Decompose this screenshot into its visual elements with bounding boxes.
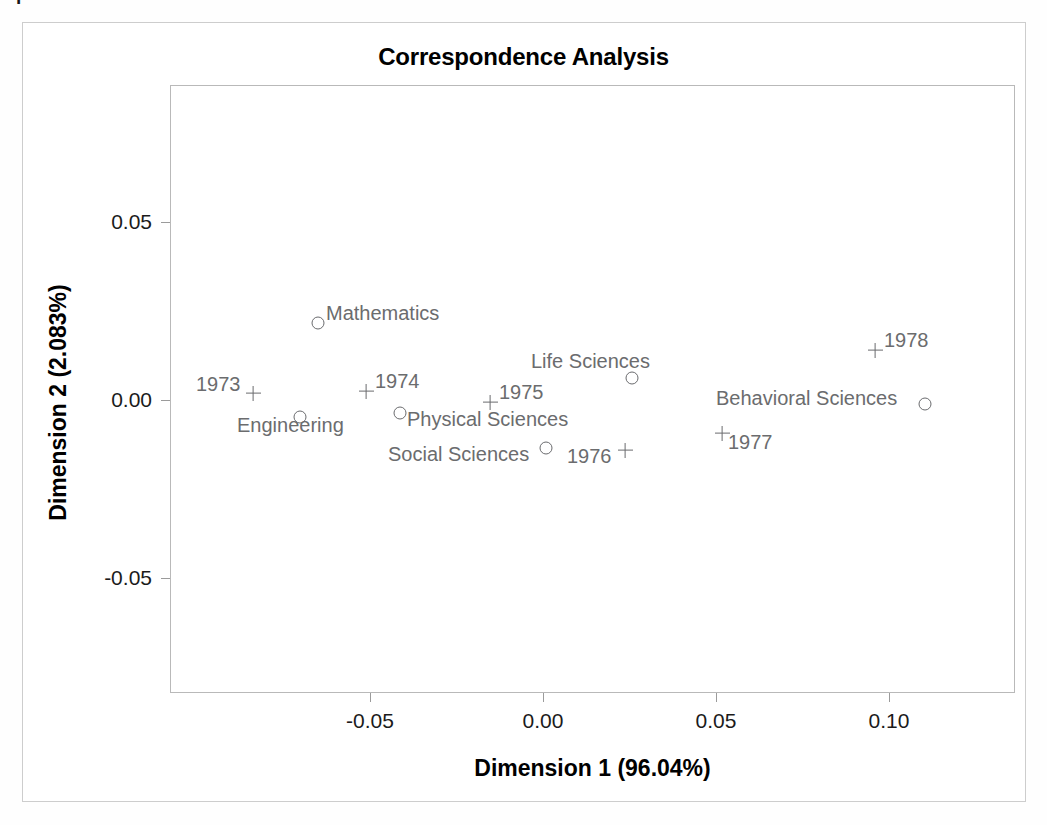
circle-marker [394,407,407,420]
circle-marker [312,317,325,330]
y-axis-tick-label: -0.05 [60,566,152,590]
data-point-label: 1977 [728,432,773,452]
data-point-label: Mathematics [326,303,439,323]
chart-title: Correspondence Analysis [0,43,1047,71]
x-axis-tick-label: 0.05 [696,709,737,733]
x-axis-tick-label: 0.10 [869,709,910,733]
plus-marker [483,395,498,410]
y-axis-label: Dimension 2 (2.083%) [45,193,72,613]
x-axis-tick [370,693,371,702]
data-point-label: Life Sciences [531,351,650,371]
data-point-label: Social Sciences [388,444,529,464]
scanned-page: p Correspondence Analysis -0.050.000.050… [0,0,1047,825]
data-point-label: Engineering [237,415,344,435]
plus-marker [246,386,261,401]
x-axis-tick [543,693,544,702]
y-axis-tick-label: 0.05 [60,210,152,234]
data-point-label: 1973 [196,374,241,394]
x-axis-tick [716,693,717,702]
plus-marker [359,384,374,399]
data-point-label: 1974 [375,371,420,391]
circle-marker [540,442,553,455]
x-axis-tick [889,693,890,702]
y-axis-tick-label: 0.00 [60,388,152,412]
scan-artifact-text: p [16,0,436,9]
data-point-label: 1975 [499,382,544,402]
data-point-label: 1976 [567,446,612,466]
plus-marker [868,343,883,358]
y-axis-tick [161,222,170,223]
data-point-label: Behavioral Sciences [716,388,897,408]
circle-marker [626,372,639,385]
x-axis-tick-label: 0.00 [523,709,564,733]
circle-marker [919,398,932,411]
x-axis-tick-label: -0.05 [346,709,394,733]
data-point-label: Physical Sciences [407,409,568,429]
plus-marker [618,443,633,458]
x-axis-label: Dimension 1 (96.04%) [170,755,1015,782]
data-point-label: 1978 [884,330,929,350]
y-axis-tick [161,400,170,401]
y-axis-tick [161,578,170,579]
